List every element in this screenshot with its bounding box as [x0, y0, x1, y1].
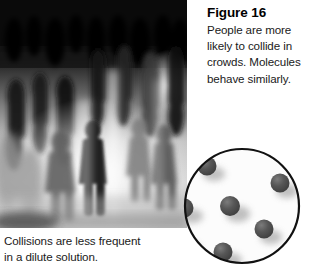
caption-line: behave similarly. — [207, 71, 325, 87]
bottom-caption-line: Collisions are less frequent — [4, 233, 204, 249]
caption-line: People are more — [207, 22, 325, 38]
molecule — [255, 220, 274, 239]
figure-caption-body: People are more likely to collide in cro… — [207, 22, 325, 87]
bottom-caption: Collisions are less frequent in a dilute… — [4, 233, 204, 266]
molecule — [220, 196, 240, 216]
figure-caption: Figure 16 People are more likely to coll… — [207, 4, 325, 87]
crowd-photo — [0, 0, 187, 228]
figure-root: Figure 16 People are more likely to coll… — [0, 0, 325, 271]
caption-line: crowds. Molecules — [207, 54, 325, 70]
bottom-caption-line: in a dilute solution. — [4, 249, 204, 265]
molecule — [271, 174, 290, 193]
caption-line: likely to collide in — [207, 38, 325, 54]
crowd-photo-graphic — [0, 0, 187, 228]
figure-title: Figure 16 — [207, 4, 325, 21]
